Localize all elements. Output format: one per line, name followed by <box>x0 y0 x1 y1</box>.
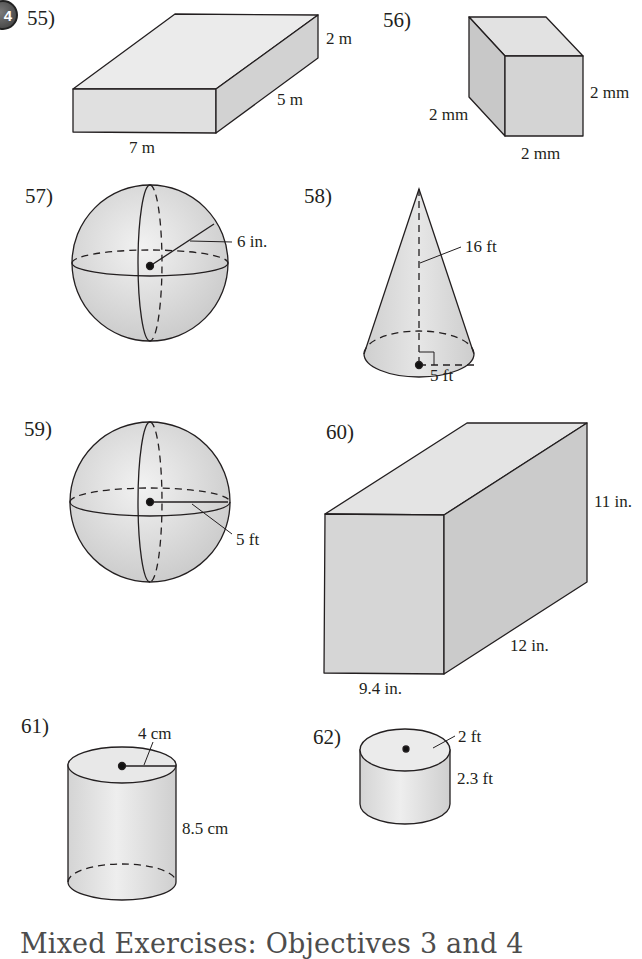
label-58-radius: 5 ft <box>430 367 453 384</box>
figure-56-cube <box>469 17 583 136</box>
problem-number-59: 59) <box>24 419 52 440</box>
figure-55-rectangular-prism <box>73 14 318 133</box>
label-55-width: 5 m <box>277 91 303 108</box>
section-heading: Mixed Exercises: Objectives 3 and 4 <box>20 928 524 959</box>
label-62-radius: 2 ft <box>458 728 481 745</box>
label-61-height: 8.5 cm <box>182 820 228 837</box>
label-60-depth: 12 in. <box>510 637 549 654</box>
label-62-height: 2.3 ft <box>457 770 493 787</box>
label-56-left: 2 mm <box>429 106 468 123</box>
problem-number-62: 62) <box>313 727 341 748</box>
label-60-width: 9.4 in. <box>359 680 402 697</box>
figure-59-sphere <box>70 422 232 582</box>
problem-number-57: 57) <box>25 186 53 207</box>
problem-number-60: 60) <box>326 422 354 443</box>
figure-58-cone <box>364 189 474 377</box>
label-55-height: 2 m <box>326 30 352 47</box>
label-56-bottom: 2 mm <box>521 145 560 162</box>
problem-number-55: 55) <box>27 8 55 29</box>
figure-57-sphere <box>72 185 232 341</box>
label-57-radius: 6 in. <box>237 233 267 250</box>
label-56-right: 2 mm <box>590 84 629 101</box>
label-55-length: 7 m <box>129 139 155 156</box>
problem-number-61: 61) <box>21 716 49 737</box>
label-60-height: 11 in. <box>594 493 632 510</box>
label-61-radius: 4 cm <box>138 725 172 742</box>
label-59-radius: 5 ft <box>236 531 259 548</box>
figure-62-cylinder <box>360 729 455 824</box>
label-58-height: 16 ft <box>465 238 497 255</box>
problem-number-58: 58) <box>304 186 332 207</box>
problem-number-56: 56) <box>383 10 411 31</box>
figure-61-cylinder <box>68 742 176 900</box>
